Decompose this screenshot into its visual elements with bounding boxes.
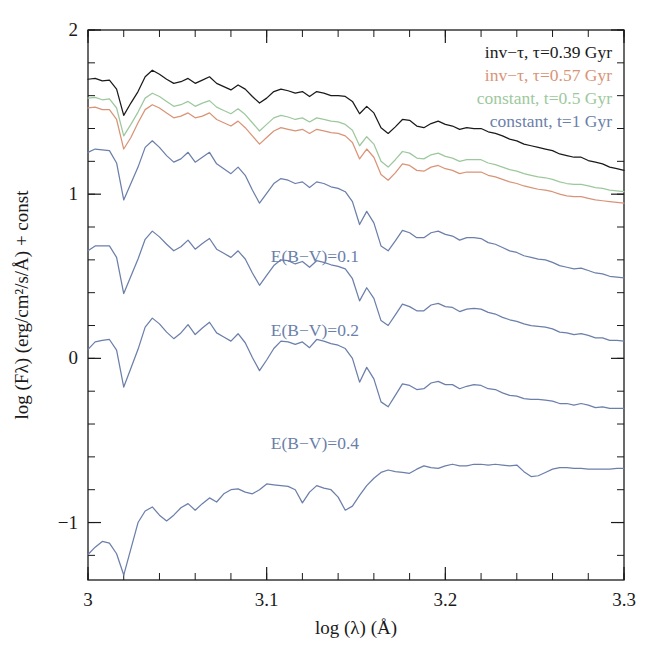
x-tick-label: 3.3 — [612, 589, 636, 610]
legend-entry: inv−τ, τ=0.57 Gyr — [485, 65, 612, 85]
plot-canvas: 33.13.23.3 210−1 E(B−V)=0.1E(B−V)=0.2E(B… — [0, 0, 658, 661]
y-tick-label: 1 — [69, 183, 79, 204]
x-tick-label: 3.1 — [255, 589, 279, 610]
x-tick-labels: 33.13.23.3 — [83, 589, 636, 610]
y-axis-label: log (Fλ) (erg/cm²/s/Å) + const — [11, 190, 33, 420]
y-tick-labels: 210−1 — [58, 19, 78, 533]
legend-entry: constant, t=0.5 Gyr — [477, 88, 612, 108]
y-tick-label: 0 — [69, 347, 79, 368]
y-tick-label: −1 — [58, 512, 78, 533]
x-tick-label: 3 — [83, 589, 93, 610]
extinction-annotation: E(B−V)=0.1 — [271, 246, 359, 266]
x-tick-label: 3.2 — [433, 589, 457, 610]
legend-entry: inv−τ, τ=0.39 Gyr — [485, 42, 612, 62]
y-tick-label: 2 — [69, 19, 79, 40]
extinction-annotation: E(B−V)=0.4 — [271, 433, 360, 453]
legend: inv−τ, τ=0.39 Gyrinv−τ, τ=0.57 Gyrconsta… — [477, 42, 612, 131]
spectra-figure: 33.13.23.3 210−1 E(B−V)=0.1E(B−V)=0.2E(B… — [0, 0, 658, 661]
spectrum-line — [88, 464, 624, 575]
legend-entry: constant, t=1 Gyr — [490, 111, 612, 131]
x-axis-label: log (λ) (Å) — [315, 617, 397, 639]
extinction-annotation: E(B−V)=0.2 — [271, 320, 359, 340]
